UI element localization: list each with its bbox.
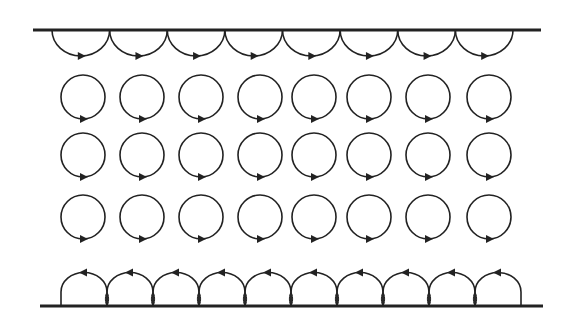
arrow-right-icon: [308, 52, 316, 60]
arrow-right-icon: [198, 115, 206, 123]
arrow-right-icon: [366, 115, 374, 123]
arrow-right-icon: [80, 115, 88, 123]
bottom-half-vortex: [475, 272, 521, 306]
top-half-vortex: [52, 30, 110, 56]
arrow-right-icon: [366, 235, 374, 243]
top-half-vortex: [398, 30, 456, 56]
bottom-half-vortex: [383, 272, 429, 306]
arrow-right-icon: [80, 235, 88, 243]
bottom-half-vortex: [107, 272, 153, 306]
bottom-half-vortex: [291, 272, 337, 306]
arrow-left-icon: [447, 268, 455, 276]
arrow-right-icon: [139, 173, 147, 181]
arrow-right-icon: [80, 173, 88, 181]
arrow-right-icon: [311, 115, 319, 123]
arrow-right-icon: [139, 235, 147, 243]
arrow-right-icon: [257, 173, 265, 181]
vortex-circle: [292, 133, 336, 177]
top-half-vortex: [110, 30, 168, 56]
arrow-left-icon: [263, 268, 271, 276]
arrow-left-icon: [493, 268, 501, 276]
arrow-left-icon: [79, 268, 87, 276]
bottom-half-vortex: [61, 272, 107, 306]
arrow-right-icon: [366, 173, 374, 181]
vortex-circle: [120, 195, 164, 239]
arrow-right-icon: [193, 52, 201, 60]
arrow-left-icon: [171, 268, 179, 276]
top-half-vortex: [225, 30, 283, 56]
arrow-right-icon: [486, 173, 494, 181]
arrow-right-icon: [135, 52, 143, 60]
arrow-right-icon: [481, 52, 489, 60]
vortex-circle: [238, 75, 282, 119]
vortex-circle: [347, 75, 391, 119]
arrow-right-icon: [311, 173, 319, 181]
arrow-right-icon: [198, 173, 206, 181]
vortex-circle: [179, 75, 223, 119]
arrow-right-icon: [251, 52, 259, 60]
arrow-right-icon: [311, 235, 319, 243]
vortex-circle: [406, 75, 450, 119]
arrow-right-icon: [78, 52, 86, 60]
arrow-right-icon: [257, 235, 265, 243]
arrow-right-icon: [366, 52, 374, 60]
arrow-right-icon: [139, 115, 147, 123]
top-half-vortex: [340, 30, 398, 56]
arrow-left-icon: [217, 268, 225, 276]
bottom-half-vortex: [337, 272, 383, 306]
bottom-half-vortex: [199, 272, 245, 306]
arrow-right-icon: [425, 115, 433, 123]
arrow-left-icon: [401, 268, 409, 276]
top-half-vortex: [167, 30, 225, 56]
vortex-circle: [467, 75, 511, 119]
arrow-right-icon: [198, 235, 206, 243]
vortex-circle: [406, 195, 450, 239]
vortex-circle: [347, 195, 391, 239]
arrow-right-icon: [486, 115, 494, 123]
bottom-half-vortex: [429, 272, 475, 306]
vortex-circle: [238, 195, 282, 239]
vortex-circle: [61, 195, 105, 239]
bottom-half-vortex: [153, 272, 199, 306]
arrow-right-icon: [486, 235, 494, 243]
top-half-vortex: [283, 30, 341, 56]
vortex-circle: [467, 195, 511, 239]
arrow-left-icon: [309, 268, 317, 276]
arrow-right-icon: [257, 115, 265, 123]
arrow-left-icon: [355, 268, 363, 276]
vortex-circle: [61, 133, 105, 177]
vortex-circle: [179, 195, 223, 239]
vortex-circle: [406, 133, 450, 177]
vortex-circle: [347, 133, 391, 177]
vortex-circle: [238, 133, 282, 177]
arrow-right-icon: [424, 52, 432, 60]
vortex-diagram: [0, 0, 572, 332]
arrow-right-icon: [425, 235, 433, 243]
vortex-circle: [292, 75, 336, 119]
vortex-circle: [61, 75, 105, 119]
vortex-circle: [120, 75, 164, 119]
arrow-left-icon: [125, 268, 133, 276]
vortex-circle: [292, 195, 336, 239]
arrow-right-icon: [425, 173, 433, 181]
vortex-circle: [179, 133, 223, 177]
top-half-vortex: [455, 30, 513, 56]
bottom-half-vortex: [245, 272, 291, 306]
vortex-circle: [120, 133, 164, 177]
vortex-circle: [467, 133, 511, 177]
